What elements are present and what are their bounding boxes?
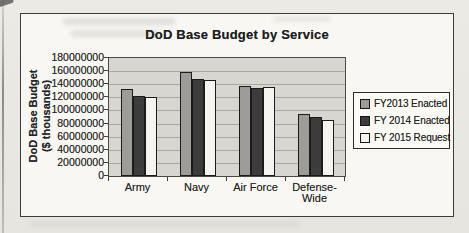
y-tick-mark	[104, 96, 108, 97]
bar-fy-2015-request-army	[145, 97, 157, 176]
y-tick-label: 180000000	[24, 51, 104, 63]
y-tick-label: 140000000	[24, 77, 104, 89]
y-tick-label: 160000000	[24, 64, 104, 76]
x-tick-mark	[167, 177, 168, 181]
y-tick-mark	[104, 70, 108, 71]
y-tick-mark	[104, 109, 108, 110]
x-tick-mark	[226, 177, 227, 181]
legend: FY2013 EnactedFY 2014 EnactedFY 2015 Req…	[353, 92, 450, 149]
gridline	[109, 84, 345, 85]
category-label-air-force: Air Force	[226, 182, 285, 193]
bleedthrough-artifact	[63, 18, 175, 25]
x-tick-mark	[344, 177, 345, 181]
bar-fy2013-enacted-air-force	[239, 86, 251, 176]
bar-fy-2014-enacted-defense-wide	[310, 117, 322, 176]
bar-fy2013-enacted-defense-wide	[298, 114, 310, 176]
category-label-navy: Navy	[167, 182, 226, 193]
y-tick-label: 100000000	[24, 103, 104, 115]
legend-swatch-fy-2014-enacted	[360, 116, 370, 126]
scan-smudge-artifact	[0, 0, 14, 7]
y-tick-mark	[104, 149, 108, 150]
bar-fy-2014-enacted-air-force	[251, 88, 263, 176]
chart-frame: DoD Base Budget by Service DoD Base Budg…	[20, 13, 454, 217]
y-tick-label: 120000000	[24, 90, 104, 102]
chart-title: DoD Base Budget by Service	[21, 27, 453, 42]
y-tick-label: 80000000	[24, 117, 104, 129]
bar-fy-2014-enacted-army	[133, 96, 145, 176]
legend-swatch-fy-2015-request	[360, 133, 370, 143]
x-tick-mark	[285, 177, 286, 181]
bar-fy-2015-request-navy	[204, 80, 216, 176]
y-tick-label: 40000000	[24, 143, 104, 155]
x-tick-mark	[108, 177, 109, 181]
category-label-army: Army	[108, 182, 167, 193]
y-tick-mark	[104, 175, 108, 176]
gridline	[109, 71, 345, 72]
legend-label: FY2013 Enacted	[374, 98, 447, 109]
bar-fy-2015-request-defense-wide	[322, 120, 334, 176]
bar-fy2013-enacted-navy	[180, 72, 192, 176]
y-tick-mark	[104, 57, 108, 58]
y-tick-mark	[104, 83, 108, 84]
y-tick-mark	[104, 136, 108, 137]
bleedthrough-artifact	[273, 16, 331, 22]
scan-streak-artifact	[30, 222, 300, 226]
legend-item-fy-2014-enacted: FY 2014 Enacted	[360, 112, 449, 129]
legend-item-fy2013-enacted: FY2013 Enacted	[360, 95, 449, 112]
plot-area	[108, 57, 346, 177]
y-tick-label: 60000000	[24, 130, 104, 142]
scan-edge-artifact	[2, 0, 4, 233]
category-label-defense-wide: Defense-Wide	[285, 182, 344, 204]
bar-fy-2015-request-air-force	[263, 87, 275, 176]
bar-fy2013-enacted-army	[121, 89, 133, 176]
y-tick-label: 20000000	[24, 156, 104, 168]
legend-label: FY 2014 Enacted	[374, 115, 450, 126]
y-tick-mark	[104, 123, 108, 124]
y-tick-label: 0	[24, 169, 104, 181]
legend-swatch-fy2013-enacted	[360, 99, 370, 109]
legend-label: FY 2015 Request	[374, 132, 450, 143]
legend-item-fy-2015-request: FY 2015 Request	[360, 129, 449, 146]
bar-fy-2014-enacted-navy	[192, 79, 204, 176]
y-tick-mark	[104, 162, 108, 163]
scanned-page: DoD Base Budget by Service DoD Base Budg…	[0, 0, 469, 233]
